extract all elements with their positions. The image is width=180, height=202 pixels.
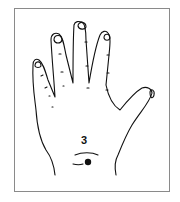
hand-outline	[33, 21, 152, 175]
nail-ring	[54, 36, 62, 44]
hand-illustration	[0, 0, 180, 202]
acupressure-point	[85, 159, 91, 165]
wrist-crease	[75, 153, 98, 155]
nail-little	[35, 62, 41, 68]
point-label: 3	[81, 134, 87, 146]
wrist-crease-lower	[73, 164, 83, 165]
